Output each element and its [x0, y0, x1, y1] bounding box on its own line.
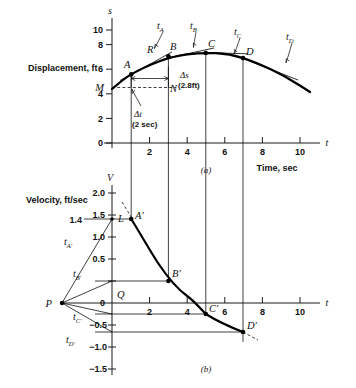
panel-b-y-axis-label: Velocity, ft/sec: [26, 195, 88, 205]
tangent-label-C: tC: [234, 26, 242, 39]
tangent-label-D: tD: [286, 31, 294, 44]
panel-b-ytick-0.5: 0.5: [92, 254, 105, 264]
point-label-D-prime: D′: [246, 320, 258, 331]
panel-b-ytick-neg0.5: −0.5: [89, 320, 107, 330]
graphical-differentiation-figure: 0 2 4 6 8 10 2 4 6 8 10 s t Displacement…: [0, 0, 356, 388]
point-label-C: C: [208, 38, 216, 49]
panel-a-ytick-8: 8: [98, 40, 103, 50]
tangent-label-A: tA: [157, 20, 164, 33]
panel-a-y-axis-label: Displacement, ft: [28, 63, 98, 73]
panel-b-y-axis-name: V: [107, 172, 115, 183]
point-label-C-prime: C′: [209, 303, 219, 314]
panel-a-xtick-4: 4: [185, 147, 190, 157]
panel-a-xtick-6: 6: [222, 147, 227, 157]
delta-t-leader: [132, 89, 141, 106]
panel-a-xtick-10: 10: [295, 147, 305, 157]
panel-b-ytick-neg1.5: −1.5: [89, 364, 107, 374]
pole-label-P: P: [45, 298, 53, 309]
point-label-A: A: [123, 59, 131, 70]
tangent-D-leader: [286, 43, 292, 63]
panel-b-ytick-1.5: 1.5: [92, 210, 105, 220]
panel-a-ytick-10: 10: [93, 25, 103, 35]
delta-t-label: Δt: [133, 109, 142, 119]
panel-b-x-axis-name: t: [326, 297, 329, 308]
point-label-B: B: [170, 41, 177, 52]
tangent-B-arrowhead: [193, 43, 196, 47]
point-label-D: D: [245, 46, 254, 57]
point-label-R: R: [146, 44, 154, 55]
panel-b-ytick-neg1.0: −1.0: [89, 342, 107, 352]
point-label-L: L: [117, 213, 124, 224]
panel-a-ytick-0: 0: [98, 138, 103, 148]
panel-b-ytick-0: 0: [100, 298, 105, 308]
delta-s-label: Δs: [179, 70, 189, 80]
panel-b: 2.0 1.5 1.0 0.5 0 −0.5 −1.0 −1.5 1.4 2 4…: [26, 172, 329, 375]
panel-a-y-axis-name: s: [108, 5, 112, 16]
point-label-Q: Q: [117, 289, 125, 300]
data-point-A-prime: [129, 217, 134, 222]
panel-b-xtick-4: 4: [185, 307, 190, 317]
tangent-A-leader: [155, 32, 164, 49]
delta-s-value: (2.8ft): [178, 81, 200, 90]
panel-b-caption: (b): [201, 364, 212, 374]
panel-b-xtick-6: 6: [222, 307, 227, 317]
point-label-B-prime: B′: [172, 268, 181, 279]
panel-a-x-axis-label: Time, sec: [257, 163, 298, 173]
panel-b-xtick-10: 10: [295, 307, 305, 317]
data-point-B-prime: [166, 279, 171, 284]
panel-a-ytick-2: 2: [98, 114, 103, 124]
point-label-A-prime: A′: [134, 210, 144, 221]
delta-t-value: (2 sec): [132, 120, 158, 129]
panel-b-xtick-2: 2: [147, 307, 152, 317]
panel-b-ytick-2.0: 2.0: [92, 188, 105, 198]
ray-label-D-prime: tD′: [66, 334, 75, 347]
data-point-C-prime: [204, 312, 209, 317]
velocity-curve-end-dash: [243, 332, 258, 340]
ray-label-B-prime: tB′: [73, 268, 82, 281]
ray-label-A-prime: tA′: [64, 236, 73, 249]
panel-a-xtick-8: 8: [260, 147, 265, 157]
point-label-M: M: [94, 82, 105, 93]
panel-a: 0 2 4 6 8 10 2 4 6 8 10 s t Displacement…: [28, 5, 329, 175]
panel-a-xtick-2: 2: [147, 147, 152, 157]
panel-a-ytick-6: 6: [98, 64, 103, 74]
panel-b-marked-value: 1.4: [69, 215, 82, 225]
point-L-marker: [110, 217, 114, 221]
panel-a-x-axis-name: t: [326, 137, 329, 148]
data-point-D-prime: [241, 330, 246, 335]
ray-label-C-prime: tC′: [73, 311, 82, 324]
tangent-label-B: tB: [190, 20, 197, 33]
tangent-line-D: [252, 62, 298, 80]
point-label-N: N: [169, 83, 178, 94]
panel-b-xtick-8: 8: [260, 307, 265, 317]
displacement-curve: [112, 53, 310, 92]
